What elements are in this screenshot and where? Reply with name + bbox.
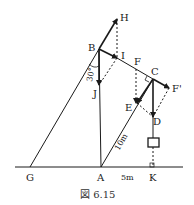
- right-angle-C: [145, 76, 149, 82]
- label-Fprime: F': [172, 83, 182, 94]
- dashed-ED: [137, 103, 153, 117]
- label-H: H: [120, 12, 129, 23]
- line-AC: [101, 79, 153, 167]
- label-B: B: [88, 42, 95, 53]
- label-K: K: [149, 172, 157, 183]
- figure-caption: 図 6.15: [80, 189, 115, 200]
- arrow-BH: [99, 19, 117, 49]
- label-distance-5m: 5m: [121, 173, 134, 182]
- label-length-10m: 10m: [113, 132, 130, 152]
- label-D: D: [153, 116, 161, 127]
- weight-box: [148, 138, 159, 147]
- label-G: G: [26, 172, 34, 183]
- label-J: J: [92, 88, 97, 99]
- label-F: F: [134, 56, 141, 67]
- label-E: E: [125, 102, 132, 113]
- label-C: C: [151, 66, 159, 77]
- line-GB: [30, 49, 99, 167]
- dashed-IJ: [99, 58, 117, 85]
- label-angle-30: 30°: [85, 67, 96, 83]
- diagram-canvas: H B I F C F' J E D G A K 30° 10m 5m 図 6.…: [0, 0, 194, 205]
- label-A: A: [96, 172, 105, 183]
- label-I: I: [121, 50, 125, 61]
- arrow-BI: [99, 49, 117, 58]
- arrow-CFprime: [153, 79, 169, 88]
- dashed-FprimeD: [153, 88, 169, 117]
- arrow-CE: [137, 79, 153, 103]
